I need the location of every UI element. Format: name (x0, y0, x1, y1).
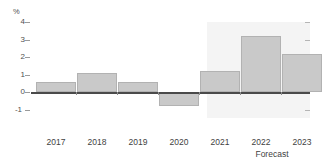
x-label-2023: 2023 (282, 138, 322, 147)
x-label-2019: 2019 (118, 138, 158, 147)
x-tick-4 (199, 92, 200, 95)
bar-2022 (241, 36, 281, 92)
y-tick-2 (25, 57, 30, 58)
x-tick-2 (117, 92, 118, 95)
y-tick-right-neg1 (305, 110, 310, 111)
x-label-2020: 2020 (159, 138, 199, 147)
y-label-0: 0 (11, 88, 25, 96)
y-label-3: 3 (11, 36, 25, 44)
y-axis-unit-label: % (13, 8, 20, 16)
bar-2021 (200, 71, 240, 92)
x-label-2021: 2021 (200, 138, 240, 147)
y-tick-right-3 (305, 40, 310, 41)
bar-2020 (159, 92, 199, 106)
plot-area (31, 22, 310, 127)
forecast-caption: Forecast (241, 150, 303, 159)
x-label-2022: 2022 (241, 138, 281, 147)
bar-2018 (77, 73, 117, 92)
y-tick-right-4 (305, 22, 310, 23)
x-label-2017: 2017 (36, 138, 76, 147)
x-tick-5 (240, 92, 241, 95)
bar-2019 (118, 82, 158, 93)
y-label-4: 4 (11, 18, 25, 26)
y-tick-4 (25, 22, 30, 23)
y-label-2: 2 (11, 53, 25, 61)
bar-2017 (36, 82, 76, 93)
y-tick-0 (25, 92, 30, 93)
y-label-1: 1 (11, 71, 25, 79)
x-tick-3 (158, 92, 159, 95)
x-tick-1 (76, 92, 77, 95)
x-label-2018: 2018 (77, 138, 117, 147)
y-label-neg1: -1 (8, 106, 22, 114)
y-tick-neg1 (25, 110, 30, 111)
y-tick-1 (25, 75, 30, 76)
x-tick-6 (281, 92, 282, 95)
bar-2023 (282, 54, 322, 93)
y-tick-3 (25, 40, 30, 41)
zero-baseline (31, 92, 310, 94)
